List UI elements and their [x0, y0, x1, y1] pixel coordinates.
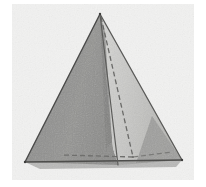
vertex-front-left: [24, 161, 26, 163]
vertex-back-hidden: [132, 156, 134, 158]
tetrahedron-figure: Shaded tetrahedron with dashed hidden ed…: [0, 0, 206, 187]
tetrahedron-drawing: [0, 0, 206, 187]
vertex-front-right: [181, 159, 183, 161]
vertex-apex: [99, 13, 101, 15]
